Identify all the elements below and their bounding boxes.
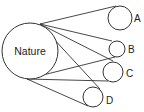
leaf-A-label: A: [134, 13, 141, 24]
leaf-C-circle: [103, 62, 123, 82]
node-B: B: [109, 41, 135, 57]
diagram-canvas: Nature A B C D: [0, 0, 144, 112]
node-D: D: [83, 87, 113, 107]
nature-label: Nature: [14, 45, 46, 57]
leaf-A-circle: [108, 6, 132, 30]
edge-nature-C-bottom: [27, 79, 108, 81]
node-C: C: [103, 62, 133, 82]
edge-nature-D-bottom: [27, 79, 88, 106]
leaf-B-circle: [109, 41, 125, 57]
leaf-C-label: C: [126, 68, 133, 79]
edge-nature-A-top: [40, 6, 116, 24]
leaf-D-label: D: [106, 95, 113, 106]
node-nature: Nature: [2, 23, 58, 79]
leaf-D-circle: [83, 87, 103, 107]
leaf-B-label: B: [128, 44, 135, 55]
node-A: A: [108, 6, 141, 30]
